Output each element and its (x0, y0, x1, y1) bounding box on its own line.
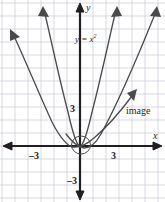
y-tick-label-positive-3: 3 (70, 104, 75, 114)
x-axis-arrow-right (153, 142, 162, 150)
grid-lines (0, 0, 165, 202)
curve2-arrow-left (38, 6, 49, 17)
x-tick-label-positive-3: 3 (111, 151, 116, 161)
equation-label-exponent: 2 (94, 33, 97, 39)
y-axis-arrow-up (76, 3, 84, 12)
y-axis-arrow-down (76, 191, 84, 200)
x-axis-arrow-left (3, 142, 12, 150)
x-axis-label: x (153, 131, 157, 141)
curve-wide-parabola-left (10, 29, 137, 147)
curve2-arrow-right (111, 6, 122, 17)
image-curve-label: image (126, 106, 150, 116)
x-tick-label-negative-3: –3 (29, 151, 39, 161)
curve3-arrow-right (150, 6, 161, 17)
graph-canvas (0, 0, 165, 202)
equation-label-text: y = x (75, 34, 94, 44)
y-axis-label: y (86, 3, 90, 13)
y-tick-label-negative-3: –3 (67, 176, 77, 186)
parabola-graph-figure: y x –3 3 3 –3 y = x2 image (0, 0, 165, 202)
equation-label: y = x2 (75, 33, 97, 44)
